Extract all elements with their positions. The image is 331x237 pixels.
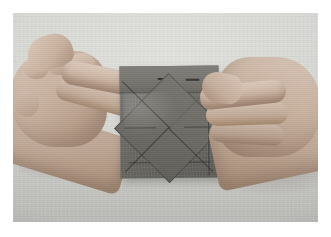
left-knuckle-4 (15, 91, 39, 117)
right-hand (188, 39, 318, 214)
paper-highlight (124, 92, 176, 137)
photograph: Two hands folding a square of gray origa… (13, 13, 318, 222)
screenshot-root: Two hands folding a square of gray origa… (0, 0, 331, 237)
photo-white-border: Two hands folding a square of gray origa… (0, 0, 331, 237)
paper-seam-bottom-left (128, 162, 150, 163)
